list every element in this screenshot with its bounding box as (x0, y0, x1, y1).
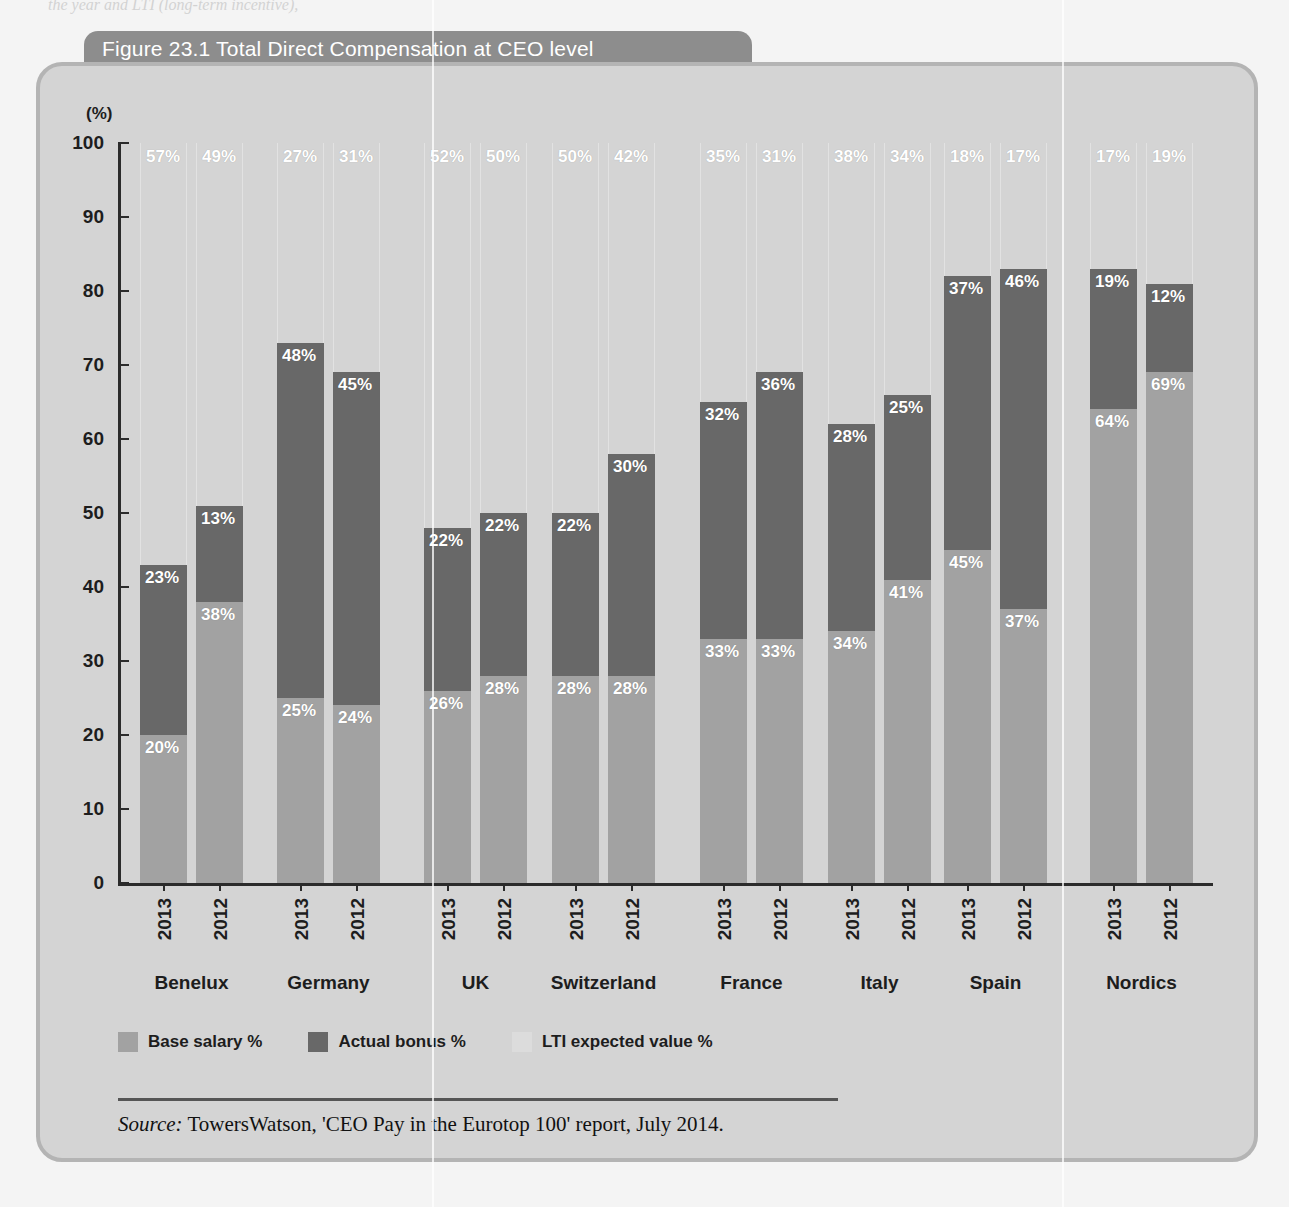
bar-spain-2013[interactable]: 45%37%18% (944, 143, 991, 883)
bar-nordics-2012[interactable]: 69%12%19% (1146, 143, 1193, 883)
bar-germany-2012[interactable]: 24%45%31% (333, 143, 380, 883)
segment-value-label: 18% (945, 143, 984, 167)
segment-actual-bonus: 22% (480, 513, 527, 676)
segment-lti-expected-value: 38% (828, 143, 875, 424)
x-axis-year-label: 2012 (770, 898, 792, 940)
x-axis-tick-mark (300, 883, 302, 891)
segment-actual-bonus: 12% (1146, 284, 1193, 373)
segment-value-label: 28% (828, 424, 867, 447)
y-axis-tick-mark (118, 290, 129, 292)
x-axis-year-label: 2013 (842, 898, 864, 940)
segment-base-salary: 26% (424, 691, 471, 883)
figure-page: the year and LTI (long-term incentive), … (0, 0, 1289, 1207)
bar-stack: 33%32%35% (700, 143, 747, 883)
y-axis-unit-label: (%) (86, 104, 112, 124)
legend-label: Actual bonus % (338, 1032, 466, 1052)
x-axis-year-label: 2012 (1014, 898, 1036, 940)
bar-stack: 28%22%50% (552, 143, 599, 883)
segment-actual-bonus: 45% (333, 372, 380, 705)
bar-benelux-2012[interactable]: 38%13%49% (196, 143, 243, 883)
segment-actual-bonus: 30% (608, 454, 655, 676)
segment-base-salary: 38% (196, 602, 243, 883)
bar-uk-2012[interactable]: 28%22%50% (480, 143, 527, 883)
bar-stack: 38%13%49% (196, 143, 243, 883)
segment-base-salary: 20% (140, 735, 187, 883)
segment-value-label: 46% (1000, 269, 1039, 292)
x-axis-year-label: 2013 (566, 898, 588, 940)
y-axis-tick-label: 10 (83, 798, 118, 820)
bar-stack: 24%45%31% (333, 143, 380, 883)
y-axis-tick-mark (118, 512, 129, 514)
bar-nordics-2013[interactable]: 64%19%17% (1090, 143, 1137, 883)
plot-area: 010203040506070809010020%23%57%38%13%49%… (118, 143, 1221, 883)
x-axis-year-label: 2012 (210, 898, 232, 940)
y-axis-tick-mark (118, 660, 129, 662)
y-axis-tick-mark (118, 216, 129, 218)
bar-switzerland-2013[interactable]: 28%22%50% (552, 143, 599, 883)
x-axis-tick-mark (907, 883, 909, 891)
segment-value-label: 32% (700, 402, 739, 425)
x-axis-tick-mark (631, 883, 633, 891)
bar-stack: 28%30%42% (608, 143, 655, 883)
x-axis-tick-mark (447, 883, 449, 891)
source-text: TowersWatson, 'CEO Pay in the Eurotop 10… (183, 1112, 724, 1136)
x-axis-year-label: 2012 (622, 898, 644, 940)
segment-value-label: 31% (334, 143, 373, 167)
bar-uk-2013[interactable]: 26%22%52% (424, 143, 471, 883)
y-axis-tick-label: 0 (93, 872, 118, 894)
lti-swatch (512, 1032, 532, 1052)
segment-lti-expected-value: 35% (700, 143, 747, 402)
segment-actual-bonus: 22% (552, 513, 599, 676)
bar-italy-2013[interactable]: 34%28%38% (828, 143, 875, 883)
segment-value-label: 22% (480, 513, 519, 536)
segment-value-label: 19% (1090, 269, 1129, 292)
segment-base-salary: 25% (277, 698, 324, 883)
segment-lti-expected-value: 17% (1000, 143, 1047, 269)
segment-value-label: 34% (885, 143, 924, 167)
x-axis-tick-mark (1169, 883, 1171, 891)
bar-stack: 37%46%17% (1000, 143, 1047, 883)
legend-item: Actual bonus % (308, 1032, 466, 1052)
segment-value-label: 37% (1000, 609, 1039, 632)
segment-value-label: 17% (1091, 143, 1130, 167)
actual-bonus-swatch (308, 1032, 328, 1052)
bar-switzerland-2012[interactable]: 28%30%42% (608, 143, 655, 883)
bar-france-2013[interactable]: 33%32%35% (700, 143, 747, 883)
y-axis-tick-label: 80 (83, 280, 118, 302)
bar-spain-2012[interactable]: 37%46%17% (1000, 143, 1047, 883)
segment-value-label: 22% (552, 513, 591, 536)
clipped-body-text: the year and LTI (long-term incentive), (48, 0, 668, 14)
bar-france-2012[interactable]: 33%36%31% (756, 143, 803, 883)
segment-value-label: 45% (944, 550, 983, 573)
segment-base-salary: 28% (480, 676, 527, 883)
y-axis-tick-mark (118, 142, 129, 144)
x-axis-tick-mark (851, 883, 853, 891)
segment-value-label: 22% (424, 528, 463, 551)
segment-value-label: 12% (1146, 284, 1185, 307)
segment-value-label: 36% (756, 372, 795, 395)
bar-italy-2012[interactable]: 41%25%34% (884, 143, 931, 883)
base-salary-swatch (118, 1032, 138, 1052)
x-axis-tick-mark (779, 883, 781, 891)
bar-germany-2013[interactable]: 25%48%27% (277, 143, 324, 883)
x-axis-tick-mark (163, 883, 165, 891)
segment-actual-bonus: 32% (700, 402, 747, 639)
y-axis-tick-mark (118, 808, 129, 810)
x-axis-tick-mark (1023, 883, 1025, 891)
y-axis-tick-label: 30 (83, 650, 118, 672)
segment-actual-bonus: 23% (140, 565, 187, 735)
bar-benelux-2013[interactable]: 20%23%57% (140, 143, 187, 883)
x-axis-tick-mark (356, 883, 358, 891)
x-axis-tick-mark (1113, 883, 1115, 891)
segment-actual-bonus: 48% (277, 343, 324, 698)
segment-value-label: 27% (278, 143, 317, 167)
segment-actual-bonus: 36% (756, 372, 803, 638)
segment-value-label: 38% (829, 143, 868, 167)
x-axis-line (118, 883, 1213, 886)
segment-actual-bonus: 13% (196, 506, 243, 602)
segment-lti-expected-value: 49% (196, 143, 243, 506)
segment-base-salary: 41% (884, 580, 931, 883)
segment-actual-bonus: 19% (1090, 269, 1137, 410)
x-axis-country-label-italy: Italy (860, 972, 898, 994)
legend-item: LTI expected value % (512, 1032, 713, 1052)
